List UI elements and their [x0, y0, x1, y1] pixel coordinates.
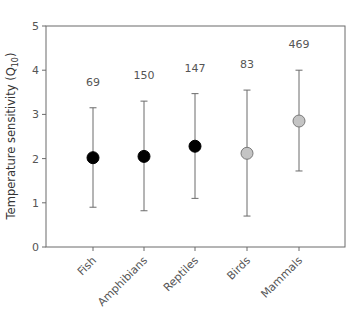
sample-size-label: 69	[86, 76, 100, 89]
marker	[138, 150, 150, 162]
marker	[241, 147, 253, 159]
marker	[293, 115, 305, 127]
y-tick-label: 3	[32, 108, 39, 121]
x-axis: FishAmphibiansReptilesBirdsMammals	[75, 247, 305, 309]
sample-size-label: 150	[134, 69, 155, 82]
marker	[189, 140, 201, 152]
y-tick-label: 2	[32, 153, 39, 166]
y-tick-label: 4	[32, 64, 39, 77]
y-tick-label: 1	[32, 197, 39, 210]
data-series: 6915014783469	[86, 38, 310, 216]
data-point-mammals: 469	[289, 38, 310, 171]
x-category-label: Amphibians	[95, 254, 150, 309]
sample-size-label: 147	[185, 62, 206, 75]
x-category-label: Fish	[75, 254, 99, 278]
y-axis-label: Temperature sensitivity (Q10)	[4, 53, 20, 221]
sample-size-label: 469	[289, 38, 310, 51]
y-tick-label: 5	[32, 20, 39, 33]
x-category-label: Birds	[224, 254, 253, 283]
x-category-label: Mammals	[258, 254, 305, 301]
sample-size-label: 83	[240, 58, 254, 71]
x-category-label: Reptiles	[161, 254, 201, 294]
y-axis: 012345	[32, 20, 46, 254]
marker	[87, 152, 99, 164]
y-tick-label: 0	[32, 241, 39, 254]
data-point-amphibians: 150	[134, 69, 155, 211]
data-point-reptiles: 147	[185, 62, 206, 199]
data-point-fish: 69	[86, 76, 100, 207]
data-point-birds: 83	[240, 58, 254, 216]
q10-chart: 012345 FishAmphibiansReptilesBirdsMammal…	[0, 0, 360, 322]
